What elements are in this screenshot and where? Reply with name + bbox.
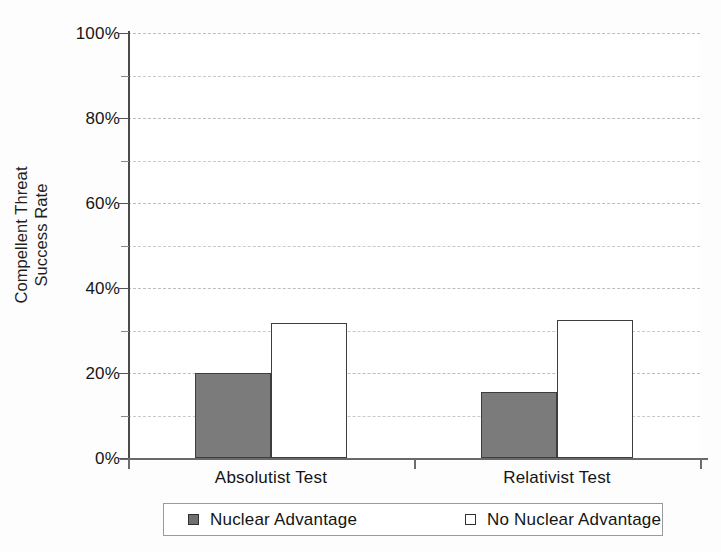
gridline-100 bbox=[128, 33, 700, 34]
x-category-label-absolutist-test: Absolutist Test bbox=[128, 468, 414, 488]
chart-legend: Nuclear Advantage No Nuclear Advantage bbox=[163, 503, 663, 536]
x-category-label-relativist-test: Relativist Test bbox=[414, 468, 700, 488]
y-axis-title-line-1: Compellent Threat bbox=[11, 166, 31, 303]
y-tick-mark-30 bbox=[121, 331, 129, 332]
gridline-90 bbox=[128, 76, 700, 77]
y-tick-mark-10 bbox=[121, 416, 129, 417]
gridline-60 bbox=[128, 203, 700, 204]
gridline-50 bbox=[128, 246, 700, 247]
gridline-80 bbox=[128, 118, 700, 119]
y-tick-mark-20 bbox=[119, 373, 129, 374]
y-tick-label-0%: 0% bbox=[42, 450, 120, 467]
y-tick-mark-60 bbox=[119, 203, 129, 204]
y-axis-tick-labels: 0%20%40%60%80%100% bbox=[42, 0, 120, 552]
legend-label-0: Nuclear Advantage bbox=[210, 510, 357, 530]
y-tick-label-80%: 80% bbox=[42, 110, 120, 127]
y-tick-label-40%: 40% bbox=[42, 280, 120, 297]
bar-relativist-test-nuclear-advantage bbox=[481, 392, 557, 458]
y-tick-mark-90 bbox=[121, 76, 129, 77]
bar-absolutist-test-no-nuclear-advantage bbox=[271, 323, 347, 458]
y-tick-mark-70 bbox=[121, 161, 129, 162]
x-separator-2 bbox=[700, 458, 702, 469]
legend-item-no-nuclear-advantage[interactable]: No Nuclear Advantage bbox=[465, 510, 661, 530]
legend-item-nuclear-advantage[interactable]: Nuclear Advantage bbox=[188, 510, 357, 530]
bar-chart-figure: Compellent Threat Success Rate 0%20%40%6… bbox=[0, 0, 721, 552]
legend-swatch-filled-icon bbox=[188, 514, 199, 525]
y-tick-mark-50 bbox=[121, 246, 129, 247]
y-tick-mark-100 bbox=[119, 33, 129, 34]
y-tick-mark-80 bbox=[119, 118, 129, 119]
bar-relativist-test-no-nuclear-advantage bbox=[557, 320, 633, 458]
plot-area bbox=[128, 33, 700, 458]
bar-absolutist-test-nuclear-advantage bbox=[195, 373, 271, 458]
y-tick-label-20%: 20% bbox=[42, 365, 120, 382]
legend-swatch-hollow-icon bbox=[465, 514, 476, 525]
y-tick-mark-40 bbox=[119, 288, 129, 289]
y-tick-label-100%: 100% bbox=[42, 25, 120, 42]
legend-label-1: No Nuclear Advantage bbox=[487, 510, 661, 530]
y-tick-label-60%: 60% bbox=[42, 195, 120, 212]
gridline-70 bbox=[128, 161, 700, 162]
gridline-40 bbox=[128, 288, 700, 289]
